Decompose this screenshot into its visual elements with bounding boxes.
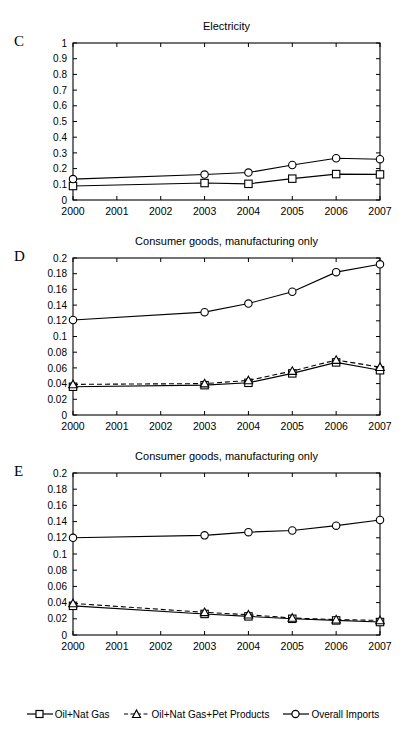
x-tick-label: 2007 <box>368 205 392 217</box>
data-point-square <box>69 182 76 189</box>
x-tick-label: 2001 <box>105 640 129 652</box>
x-tick-label: 2006 <box>324 640 348 652</box>
y-tick-label: 0.5 <box>53 116 67 127</box>
data-point-circle <box>201 532 208 539</box>
x-tick-label: 2005 <box>281 640 305 652</box>
x-tick-label: 2004 <box>237 640 261 652</box>
y-tick-label: 0.18 <box>48 484 68 495</box>
y-tick-label: 0.2 <box>53 253 67 264</box>
x-tick-label: 2004 <box>237 205 261 217</box>
legend-item-oil-nat-gas: Oil+Nat Gas <box>27 708 110 720</box>
y-tick-label: 0.04 <box>48 378 68 389</box>
data-point-square <box>201 179 208 186</box>
data-point-circle <box>289 288 296 295</box>
y-tick-label: 0.12 <box>48 315 68 326</box>
x-tick-label: 2004 <box>237 420 261 432</box>
data-point-circle <box>289 161 296 168</box>
panel-d: D Consumer goods, manufacturing only 00.… <box>0 233 406 448</box>
x-tick-label: 2005 <box>281 205 305 217</box>
x-tick-label: 2002 <box>149 420 173 432</box>
x-tick-label: 2005 <box>281 420 305 432</box>
legend-item-oil-nat-gas-pet-products: Oil+Nat Gas+Pet Products <box>124 708 270 720</box>
x-tick-label: 2003 <box>193 205 217 217</box>
y-tick-label: 0.16 <box>48 500 68 511</box>
y-tick-label: 0.06 <box>48 581 68 592</box>
y-tick-label: 0 <box>61 410 67 421</box>
y-tick-label: 0.8 <box>53 69 67 80</box>
legend-label-oil-nat-gas: Oil+Nat Gas <box>55 709 110 720</box>
y-tick-label: 0 <box>61 195 67 206</box>
data-point-circle <box>201 308 208 315</box>
y-tick-label: 0.18 <box>48 268 68 279</box>
legend-triangle-icon <box>124 708 150 720</box>
x-tick-label: 2007 <box>368 640 392 652</box>
data-point-circle <box>332 522 339 529</box>
x-tick-label: 2003 <box>193 640 217 652</box>
x-tick-label: 2000 <box>61 205 85 217</box>
x-tick-label: 2002 <box>149 205 173 217</box>
panel-c: C Electricity 00.10.20.30.40.50.60.70.80… <box>0 18 406 233</box>
data-point-circle <box>289 527 296 534</box>
y-tick-label: 0.04 <box>48 597 68 608</box>
x-tick-label: 2003 <box>193 420 217 432</box>
y-tick-label: 0.08 <box>48 347 68 358</box>
data-point-circle <box>332 155 339 162</box>
y-tick-label: 0.4 <box>53 132 67 143</box>
data-point-circle <box>376 261 383 268</box>
data-point-square <box>289 175 296 182</box>
y-tick-label: 0.02 <box>48 394 68 405</box>
y-tick-label: 0.02 <box>48 613 68 624</box>
data-point-circle <box>332 268 339 275</box>
y-tick-label: 0.14 <box>48 300 68 311</box>
y-tick-label: 0.14 <box>48 516 68 527</box>
legend-item-overall-imports: Overall Imports <box>283 708 379 720</box>
legend-label-overall-imports: Overall Imports <box>311 709 379 720</box>
y-tick-label: 0 <box>61 630 67 641</box>
data-point-circle <box>201 171 208 178</box>
x-tick-label: 2002 <box>149 640 173 652</box>
data-point-square <box>332 170 339 177</box>
plot-area-d: 00.020.040.060.080.10.120.140.160.180.22… <box>0 233 406 448</box>
data-point-square <box>376 171 383 178</box>
y-tick-label: 0.2 <box>53 163 67 174</box>
x-tick-label: 2000 <box>61 420 85 432</box>
data-point-circle <box>245 300 252 307</box>
x-tick-label: 2000 <box>61 640 85 652</box>
plot-frame <box>73 258 380 415</box>
data-point-circle <box>69 316 76 323</box>
data-point-circle <box>69 175 76 182</box>
y-tick-label: 0.12 <box>48 532 68 543</box>
chart-legend: Oil+Nat Gas Oil+Nat Gas+Pet Products Ove… <box>0 700 406 728</box>
x-tick-label: 2006 <box>324 420 348 432</box>
x-tick-label: 2001 <box>105 420 129 432</box>
plot-area-c: 00.10.20.30.40.50.60.70.80.9120002001200… <box>0 18 406 233</box>
y-tick-label: 0.7 <box>53 85 67 96</box>
data-point-circle <box>69 534 76 541</box>
y-tick-label: 0.3 <box>53 148 67 159</box>
y-tick-label: 0.6 <box>53 100 67 111</box>
plot-frame <box>73 473 380 635</box>
y-tick-label: 0.2 <box>53 468 67 479</box>
y-tick-label: 0.1 <box>53 331 67 342</box>
plot-area-e: 00.020.040.060.080.10.120.140.160.180.22… <box>0 448 406 668</box>
legend-square-icon <box>27 708 53 720</box>
y-tick-label: 0.9 <box>53 53 67 64</box>
y-tick-label: 0.1 <box>53 549 67 560</box>
data-point-square <box>245 180 252 187</box>
figure-panels-cde: C Electricity 00.10.20.30.40.50.60.70.80… <box>0 0 406 742</box>
panel-e: E Consumer goods, manufacturing only 00.… <box>0 448 406 668</box>
x-tick-label: 2006 <box>324 205 348 217</box>
y-tick-label: 0.06 <box>48 363 68 374</box>
x-tick-label: 2001 <box>105 205 129 217</box>
data-point-circle <box>376 516 383 523</box>
y-tick-label: 0.08 <box>48 565 68 576</box>
legend-label-oil-nat-gas-pet-products: Oil+Nat Gas+Pet Products <box>152 709 270 720</box>
data-point-circle <box>245 169 252 176</box>
y-tick-label: 0.16 <box>48 284 68 295</box>
legend-circle-icon <box>283 708 309 720</box>
y-tick-label: 0.1 <box>53 179 67 190</box>
y-tick-label: 1 <box>61 38 67 49</box>
x-tick-label: 2007 <box>368 420 392 432</box>
data-point-circle <box>376 155 383 162</box>
data-point-circle <box>245 528 252 535</box>
